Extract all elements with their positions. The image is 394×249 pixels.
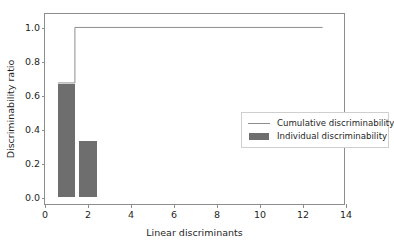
x-tick-label: 8: [214, 210, 220, 220]
y-tick-label: 1.0: [25, 23, 40, 33]
x-tick-mark: [217, 204, 218, 208]
y-tick-label: 0.4: [25, 125, 40, 135]
cumulative-line-series: [45, 14, 344, 204]
legend-line-key-icon: [247, 123, 271, 124]
x-tick-mark: [45, 204, 46, 208]
y-tick-label: 0.6: [25, 91, 40, 101]
legend-item-individual: Individual discriminability: [247, 130, 383, 143]
legend-item-cumulative: Cumulative discriminability: [247, 117, 383, 130]
cumulative-step-path: [58, 27, 323, 82]
x-tick-mark: [88, 204, 89, 208]
x-tick-label: 2: [85, 210, 91, 220]
plot-area: 0.00.20.40.60.81.0 02468101214: [45, 14, 344, 204]
x-tick-mark: [131, 204, 132, 208]
x-tick-mark: [174, 204, 175, 208]
x-tick-mark: [260, 204, 261, 208]
legend-patch-key-icon: [247, 133, 271, 140]
y-tick-label: 0.0: [25, 193, 40, 203]
x-tick-label: 12: [297, 210, 309, 220]
y-tick-label: 0.8: [25, 57, 40, 67]
x-tick-label: 6: [171, 210, 177, 220]
y-tick-label: 0.2: [25, 159, 40, 169]
x-tick-label: 10: [254, 210, 266, 220]
y-axis-title: Discriminability ratio: [6, 60, 16, 159]
chart-legend: Cumulative discriminability Individual d…: [241, 112, 389, 148]
x-tick-label: 4: [128, 210, 134, 220]
x-axis-title: Linear discriminants: [44, 228, 345, 238]
x-tick-label: 14: [340, 210, 352, 220]
x-tick-mark: [346, 204, 347, 208]
plot-axes: 0.00.20.40.60.81.0 02468101214 Cumulativ…: [44, 13, 345, 205]
x-tick-label: 0: [42, 210, 48, 220]
x-tick-mark: [303, 204, 304, 208]
legend-label-individual: Individual discriminability: [277, 132, 387, 141]
legend-label-cumulative: Cumulative discriminability: [277, 119, 394, 128]
